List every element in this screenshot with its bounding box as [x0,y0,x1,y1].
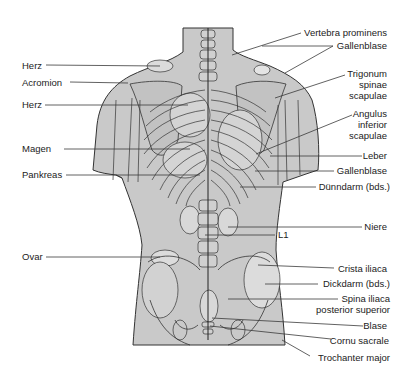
colon-right [244,252,280,308]
label-trigonum-spinae-scapulae: Trigonum spinae scapulae [347,68,387,101]
label-gallenblase-lower: Gallenblase [337,165,387,176]
label-spina-iliaca-posterior-superior: Spina iliaca posterior superior [316,293,390,315]
label-duenndarm: Dünndarm (bds.) [319,181,390,192]
label-vertebra-prominens: Vertebra prominens [304,27,387,38]
label-gallenblase-upper: Gallenblase [337,40,387,51]
kidney-left [180,206,200,234]
colon-left [142,262,178,318]
torso-illustration [0,0,409,385]
label-angulus-inferior-scapulae: Angulus inferior scapulae [349,108,387,141]
label-magen: Magen [22,143,51,154]
label-cornu-sacrale: Cornu sacrale [330,335,389,346]
label-herz-lower: Herz [22,99,42,110]
label-dickdarm: Dickdarm (bds.) [323,278,390,289]
label-niere: Niere [364,221,387,232]
label-blase: Blase [363,320,387,331]
liver-projection [218,110,262,170]
label-l1: L1 [278,229,289,240]
bladder-projection [200,290,218,322]
kidney-right [218,208,238,236]
anatomy-figure: Herz Acromion Herz Magen Pankreas Ovar V… [0,0,409,385]
label-pankreas: Pankreas [22,169,62,180]
label-leber: Leber [363,150,387,161]
label-herz-upper: Herz [22,60,42,71]
label-crista-iliaca: Crista iliaca [338,263,387,274]
label-acromion: Acromion [22,77,62,88]
gallbladder-projection-top [254,65,270,75]
label-trochanter-major: Trochanter major [318,352,390,363]
label-ovar: Ovar [22,251,43,262]
